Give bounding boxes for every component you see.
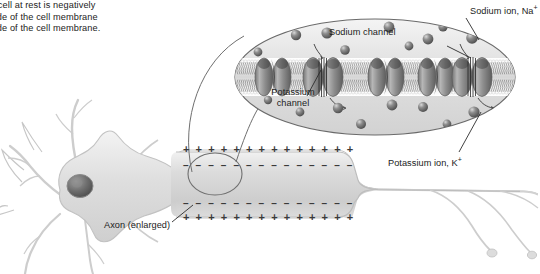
charge-symbol-outer-top: +: [296, 144, 302, 155]
charge-symbol-inner-top: –: [347, 160, 353, 171]
charge-symbol-inner-bottom: –: [221, 198, 227, 209]
charge-symbol-outer-bottom: +: [322, 212, 328, 223]
charge-symbol-inner-bottom: –: [334, 198, 340, 209]
charge-symbol-inner-top: –: [259, 160, 265, 171]
charge-symbol-inner-top: –: [309, 160, 315, 171]
charge-symbol-inner-top: –: [221, 160, 227, 171]
charge-symbol-outer-top: +: [196, 144, 202, 155]
diagram-svg: [0, 0, 540, 274]
label-potassium-channel: Potassium channel: [258, 87, 328, 109]
label-sodium-channel: Sodium channel: [329, 27, 396, 38]
charge-symbol-outer-top: +: [208, 144, 214, 155]
charge-symbol-outer-bottom: +: [271, 212, 277, 223]
charge-symbol-outer-bottom: +: [221, 212, 227, 223]
charge-symbol-outer-top: +: [233, 144, 239, 155]
charge-symbol-outer-bottom: +: [284, 212, 290, 223]
charge-symbol-inner-top: –: [296, 160, 302, 171]
charge-symbol-outer-bottom: +: [183, 212, 189, 223]
figure-caption: e cell at rest is negatively side of the…: [0, 0, 160, 35]
charge-symbol-inner-bottom: –: [322, 198, 328, 209]
charge-symbol-outer-bottom: +: [208, 212, 214, 223]
charge-symbol-inner-top: –: [271, 160, 277, 171]
charge-symbol-outer-top: +: [322, 144, 328, 155]
charge-symbol-outer-bottom: +: [309, 212, 315, 223]
charge-symbol-outer-top: +: [284, 144, 290, 155]
charge-symbol-inner-top: –: [208, 160, 214, 171]
charge-symbol-inner-bottom: –: [233, 198, 239, 209]
charge-symbol-inner-bottom: –: [246, 198, 252, 209]
charge-symbol-outer-top: +: [259, 144, 265, 155]
charge-symbol-inner-bottom: –: [259, 198, 265, 209]
charge-symbol-inner-top: –: [233, 160, 239, 171]
charge-symbol-outer-bottom: +: [233, 212, 239, 223]
caption-line-1: e cell at rest is negatively: [0, 0, 160, 12]
charge-symbol-outer-bottom: +: [246, 212, 252, 223]
caption-line-3: side of the cell membrane.: [0, 23, 160, 35]
charge-symbol-outer-bottom: +: [347, 212, 353, 223]
charge-symbol-inner-top: –: [334, 160, 340, 171]
charge-symbol-outer-top: +: [221, 144, 227, 155]
charge-symbol-inner-bottom: –: [347, 198, 353, 209]
charge-symbol-inner-bottom: –: [183, 198, 189, 209]
charge-symbol-outer-bottom: +: [296, 212, 302, 223]
charge-symbol-inner-top: –: [284, 160, 290, 171]
charge-symbol-inner-bottom: –: [284, 198, 290, 209]
charge-symbol-outer-top: +: [347, 144, 353, 155]
charge-symbol-outer-top: +: [309, 144, 315, 155]
charge-symbol-inner-bottom: –: [208, 198, 214, 209]
charge-symbol-outer-top: +: [271, 144, 277, 155]
neuron-cell-body: [0, 100, 185, 274]
label-potassium-channel-line1: Potassium: [258, 87, 328, 98]
label-potassium-ion: Potassium ion, K+: [388, 154, 462, 169]
charge-symbol-inner-top: –: [246, 160, 252, 171]
caption-line-2: side of the cell membrane: [0, 12, 160, 24]
charge-symbol-outer-top: +: [334, 144, 340, 155]
figure-canvas: e cell at rest is negatively side of the…: [0, 0, 540, 274]
charge-symbol-inner-bottom: –: [271, 198, 277, 209]
label-sodium-ion: Sodium ion, Na+: [470, 2, 538, 17]
charge-symbol-outer-top: +: [183, 144, 189, 155]
charge-symbol-inner-top: –: [196, 160, 202, 171]
label-potassium-channel-line2: channel: [258, 98, 328, 109]
label-axon-enlarged: Axon (enlarged): [104, 220, 170, 231]
charge-symbol-inner-bottom: –: [196, 198, 202, 209]
charge-symbol-outer-bottom: +: [334, 212, 340, 223]
charge-symbol-outer-bottom: +: [259, 212, 265, 223]
charge-symbol-inner-top: –: [322, 160, 328, 171]
charge-symbol-outer-top: +: [246, 144, 252, 155]
charge-symbol-outer-bottom: +: [196, 212, 202, 223]
charge-symbol-inner-bottom: –: [309, 198, 315, 209]
charge-symbol-inner-bottom: –: [296, 198, 302, 209]
charge-symbol-inner-top: –: [183, 160, 189, 171]
